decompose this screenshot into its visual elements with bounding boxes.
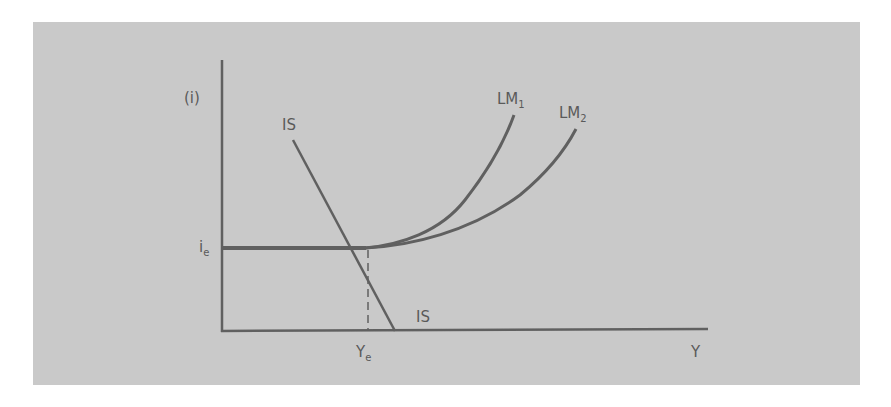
is-lm-chart: (i) ie Ye Y IS IS LM1 LM2 (0, 0, 891, 407)
lm2-curve (222, 129, 576, 248)
x-axis (221, 329, 708, 331)
is-top-label: IS (282, 116, 296, 134)
lm1-curve (222, 115, 514, 248)
is-bottom-label: IS (416, 308, 430, 326)
lm1-label: LM1 (497, 90, 525, 110)
x-axis-label: Y (690, 343, 701, 361)
is-curve (293, 140, 395, 331)
y-axis-label: (i) (184, 89, 200, 107)
ie-label: ie (199, 238, 209, 258)
ye-label: Ye (355, 343, 371, 363)
lm2-label: LM2 (559, 104, 587, 124)
